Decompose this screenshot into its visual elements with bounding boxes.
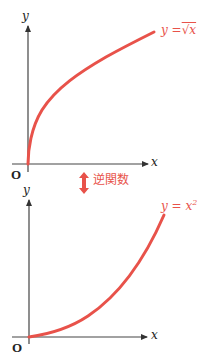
top-graph: [12, 26, 154, 172]
eq-sign: =: [172, 23, 182, 37]
square-curve: [29, 215, 164, 337]
eq-sign: =: [172, 199, 182, 213]
square-equation-label: y = x2: [161, 199, 197, 212]
eq-lhs: y: [161, 23, 168, 37]
bottom-y-label: y: [23, 184, 30, 196]
inverse-function-label: 逆関数: [93, 174, 129, 186]
bottom-graph: [12, 200, 164, 344]
top-x-label: x: [151, 156, 158, 168]
top-origin-label: O: [11, 168, 21, 181]
sqrt-curve: [28, 32, 154, 164]
eq-lhs: y: [161, 199, 168, 213]
eq-exponent: 2: [192, 198, 197, 207]
inverse-function-relation: 逆関数: [76, 174, 129, 186]
bottom-x-label: x: [151, 329, 158, 341]
eq-rhs: √x: [182, 23, 196, 37]
sqrt-equation-label: y =√x: [161, 24, 196, 36]
bottom-origin-label: O: [12, 341, 22, 354]
top-y-label: y: [22, 10, 29, 22]
